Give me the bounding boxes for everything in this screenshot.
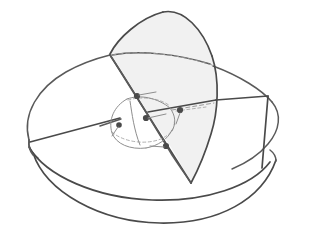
inner-sphere-left-meridian	[111, 99, 146, 148]
geometric-figure	[0, 0, 313, 243]
hemisphere-bowl	[29, 140, 276, 223]
vertex-dot-left	[116, 122, 122, 128]
chord-horizontal-far-right	[216, 96, 268, 100]
bowl-upper-arc	[29, 147, 270, 200]
connector-left-down	[112, 127, 118, 136]
bowl-lower-arc	[33, 153, 276, 223]
bowl-right-joint	[270, 150, 276, 161]
chord-horizontal-left	[30, 118, 120, 142]
inner-sphere-center-meridian	[130, 101, 140, 145]
lune-fill	[110, 12, 217, 182]
chord-vertical-right	[262, 96, 268, 168]
vertex-dot-right	[177, 107, 183, 113]
rim-back-left-arc	[27, 55, 110, 140]
figure-container	[0, 0, 313, 243]
vertex-dot-top	[134, 93, 140, 99]
shaded-lune-region	[110, 12, 217, 182]
vertex-dot-bottom	[163, 143, 169, 149]
rim-right-arc	[232, 102, 278, 169]
